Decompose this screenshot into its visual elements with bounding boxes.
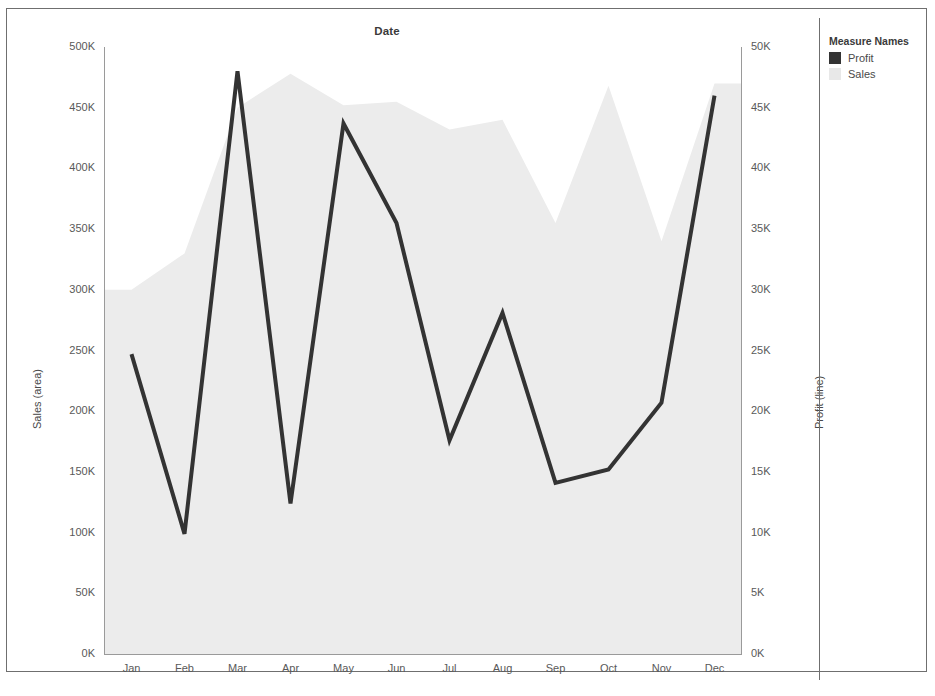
x-axis-tick-label: Oct [579, 662, 639, 674]
left-axis-tick-label: 150K [43, 465, 95, 477]
legend-color-swatch [829, 68, 841, 80]
left-axis-tick-label: 400K [43, 161, 95, 173]
right-axis-line [741, 47, 742, 655]
legend-item[interactable]: Sales [829, 68, 929, 80]
plot-svg [105, 47, 741, 654]
x-axis-tick-label: Jan [102, 662, 162, 674]
x-axis-tick-label: Feb [155, 662, 215, 674]
right-axis-tick-label: 15K [751, 465, 803, 477]
left-axis-tick-label: 250K [43, 344, 95, 356]
left-axis-tick-label: 500K [43, 40, 95, 52]
right-axis-tick-label: 0K [751, 647, 803, 659]
right-axis-tick-label: 50K [751, 40, 803, 52]
left-axis-tick-label: 100K [43, 526, 95, 538]
chart-frame: Date 500K450K400K350K300K250K200K150K100… [6, 8, 927, 672]
left-axis-tick-label: 300K [43, 283, 95, 295]
left-axis-tick-label: 350K [43, 222, 95, 234]
x-axis-tick-label: Aug [473, 662, 533, 674]
left-axis-tick-label: 450K [43, 101, 95, 113]
bottom-axis-line [104, 654, 742, 655]
chart-title: Date [7, 25, 767, 37]
right-axis-tick-label: 35K [751, 222, 803, 234]
right-axis-tick-label: 40K [751, 161, 803, 173]
sales-area-series [105, 74, 741, 654]
x-axis-tick-label: Sep [526, 662, 586, 674]
legend-item[interactable]: Profit [829, 52, 929, 64]
right-axis-tick-label: 45K [751, 101, 803, 113]
x-axis-tick-label: Mar [208, 662, 268, 674]
legend-item-label: Profit [848, 52, 874, 64]
legend-divider [819, 18, 820, 680]
x-axis-tick-label: Apr [261, 662, 321, 674]
x-axis-tick-label: Nov [632, 662, 692, 674]
left-axis-tick-label: 200K [43, 404, 95, 416]
right-axis-tick-label: 20K [751, 404, 803, 416]
right-axis-tick-label: 10K [751, 526, 803, 538]
right-axis-tick-label: 5K [751, 586, 803, 598]
left-axis-title: Sales (area) [31, 369, 43, 429]
right-axis-tick-label: 25K [751, 344, 803, 356]
left-axis-tick-label: 50K [43, 586, 95, 598]
legend: Measure Names ProfitSales [829, 35, 929, 84]
legend-item-label: Sales [848, 68, 876, 80]
x-axis-tick-label: Dec [685, 662, 745, 674]
legend-color-swatch [829, 52, 841, 64]
x-axis-tick-label: Jun [367, 662, 427, 674]
x-axis-tick-label: May [314, 662, 374, 674]
legend-title: Measure Names [829, 35, 929, 47]
right-axis-tick-label: 30K [751, 283, 803, 295]
x-axis-tick-label: Jul [420, 662, 480, 674]
plot-area [105, 47, 741, 654]
left-axis-tick-label: 0K [43, 647, 95, 659]
legend-items: ProfitSales [829, 52, 929, 80]
